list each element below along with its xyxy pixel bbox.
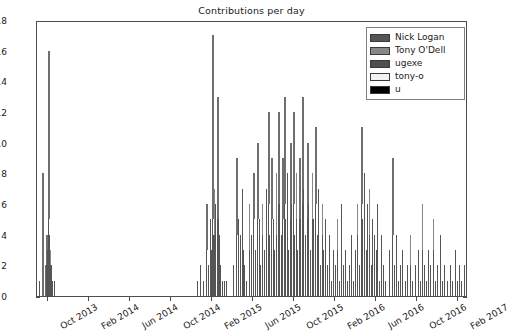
legend-item[interactable]: Nick Logan bbox=[370, 31, 460, 44]
x-tick-label: Oct 2015 bbox=[305, 302, 346, 331]
bar-segment bbox=[203, 281, 204, 296]
y-tick-mark bbox=[36, 297, 40, 298]
y-tick-label: 4 bbox=[0, 231, 7, 241]
bar-segment bbox=[444, 265, 445, 296]
bar-segment bbox=[407, 265, 408, 296]
bar-segment bbox=[39, 281, 40, 296]
bar-segment bbox=[226, 281, 227, 296]
x-tick-mark bbox=[252, 297, 253, 301]
bar-segment bbox=[257, 143, 259, 220]
bar-segment bbox=[466, 265, 467, 296]
bar-segment bbox=[217, 97, 219, 220]
bar-segment bbox=[322, 204, 323, 235]
x-tick-label: Oct 2013 bbox=[59, 302, 100, 331]
bar-segment bbox=[268, 112, 270, 204]
bar-segment bbox=[437, 265, 438, 296]
bar-segment bbox=[48, 51, 50, 220]
bar-segment bbox=[197, 281, 198, 296]
bar-segment bbox=[392, 158, 394, 235]
bar-segment bbox=[452, 281, 453, 296]
legend-swatch bbox=[370, 86, 390, 94]
x-tick-label: Oct 2016 bbox=[428, 302, 469, 331]
bar-segment bbox=[299, 158, 301, 219]
bar-segment bbox=[337, 219, 338, 250]
x-tick-label: Jun 2016 bbox=[386, 302, 425, 331]
legend-label: Tony O'Dell bbox=[395, 46, 445, 55]
legend-swatch bbox=[370, 34, 390, 42]
bar-segment bbox=[357, 204, 358, 235]
y-tick-mark-right bbox=[463, 297, 467, 298]
chart-legend: Nick LoganTony O'Dellugexetony-ou bbox=[366, 27, 465, 100]
x-tick-mark bbox=[170, 297, 171, 301]
y-tick-label: 0 bbox=[0, 292, 7, 302]
x-tick-mark bbox=[129, 297, 130, 301]
bar-segment bbox=[412, 281, 413, 296]
bar-segment bbox=[447, 281, 448, 296]
legend-item[interactable]: Tony O'Dell bbox=[370, 44, 460, 57]
bar-segment bbox=[466, 235, 467, 266]
legend-swatch bbox=[370, 60, 390, 68]
legend-label: tony-o bbox=[395, 72, 424, 81]
y-tick-label: 2 bbox=[0, 261, 7, 271]
x-tick-label: Oct 2014 bbox=[182, 302, 223, 331]
legend-label: ugexe bbox=[395, 59, 422, 68]
bar-segment bbox=[422, 204, 423, 250]
bar-segment bbox=[293, 112, 295, 204]
bar-segment bbox=[369, 189, 370, 235]
x-tick-label: Feb 2014 bbox=[100, 302, 141, 332]
bar-segment bbox=[284, 97, 286, 204]
bar-segment bbox=[271, 158, 273, 219]
bar-segment bbox=[461, 281, 462, 296]
x-tick-label: Feb 2017 bbox=[469, 302, 510, 332]
y-tick-label: 12 bbox=[0, 108, 7, 118]
x-tick-mark bbox=[334, 297, 335, 301]
bar-segment bbox=[415, 265, 416, 296]
legend-label: Nick Logan bbox=[395, 33, 445, 42]
x-tick-label: Feb 2016 bbox=[346, 302, 387, 332]
bar-segment bbox=[246, 281, 247, 296]
legend-swatch bbox=[370, 73, 390, 81]
bar-segment bbox=[253, 173, 255, 219]
x-tick-label: Feb 2015 bbox=[223, 302, 264, 332]
legend-swatch bbox=[370, 47, 390, 55]
bar-segment bbox=[200, 265, 201, 296]
bar-segment bbox=[262, 204, 263, 235]
x-tick-mark bbox=[211, 297, 212, 301]
bar-segment bbox=[312, 173, 313, 219]
bar-segment bbox=[430, 265, 431, 296]
x-tick-mark bbox=[47, 297, 48, 301]
x-tick-label: Jun 2015 bbox=[263, 302, 302, 331]
bar-segment bbox=[389, 250, 390, 296]
bar-segment bbox=[385, 281, 386, 296]
x-tick-mark bbox=[416, 297, 417, 301]
y-tick-label: 6 bbox=[0, 200, 7, 210]
bar-segment bbox=[315, 127, 317, 204]
x-tick-mark bbox=[293, 297, 294, 301]
bar-segment bbox=[206, 204, 208, 250]
legend-label: u bbox=[395, 85, 401, 94]
legend-item[interactable]: ugexe bbox=[370, 57, 460, 70]
bar-segment bbox=[296, 173, 297, 219]
bar-segment bbox=[433, 219, 434, 250]
bar-segment bbox=[50, 250, 51, 265]
y-tick-label: 8 bbox=[0, 169, 7, 179]
bar-segment bbox=[233, 265, 234, 296]
x-tick-mark bbox=[457, 297, 458, 301]
x-tick-label: Jun 2014 bbox=[140, 302, 179, 331]
bar-segment bbox=[361, 127, 363, 204]
y-tick-label: 14 bbox=[0, 77, 7, 87]
y-tick-label: 18 bbox=[0, 16, 7, 26]
bar-segment bbox=[54, 281, 55, 296]
bar-segment bbox=[42, 173, 44, 296]
bar-segment bbox=[410, 235, 411, 266]
bar-segment bbox=[402, 250, 403, 296]
y-tick-label: 10 bbox=[0, 139, 7, 149]
bar-segment bbox=[278, 112, 280, 204]
x-tick-mark bbox=[88, 297, 89, 301]
legend-item[interactable]: u bbox=[370, 83, 460, 96]
legend-item[interactable]: tony-o bbox=[370, 70, 460, 83]
chart-title: Contributions per day bbox=[36, 5, 467, 16]
y-tick-label: 16 bbox=[0, 47, 7, 57]
x-tick-mark bbox=[375, 297, 376, 301]
